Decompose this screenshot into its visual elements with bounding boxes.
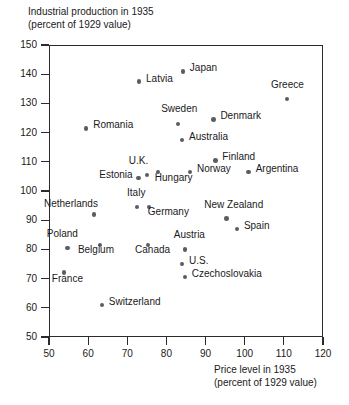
- data-point-marker: [84, 126, 89, 131]
- data-point-label: Estonia: [99, 169, 132, 180]
- data-point-label: Greece: [271, 79, 304, 90]
- y-axis-tick: [41, 220, 49, 221]
- data-point-label: France: [52, 273, 83, 284]
- x-axis-tick-label: 70: [112, 348, 142, 359]
- y-axis-tick: [41, 103, 49, 104]
- y-axis-tick: [41, 190, 49, 191]
- data-point-label: Finland: [222, 151, 255, 162]
- data-point-label: Argentina: [256, 163, 299, 174]
- y-axis-tick-label: 90: [9, 214, 37, 225]
- y-axis-tick: [41, 161, 49, 162]
- x-axis-title: Price level in 1935 (percent of 1929 val…: [214, 363, 317, 389]
- data-point-label: Spain: [244, 220, 270, 231]
- data-point-marker: [181, 69, 186, 74]
- y-axis-tick: [41, 74, 49, 75]
- y-axis-tick-label: 50: [9, 331, 37, 342]
- y-axis-tick-label: 110: [9, 156, 37, 167]
- data-point-label: Sweden: [161, 103, 197, 114]
- data-point-label: Australia: [189, 131, 228, 142]
- data-point-label: Belgium: [78, 244, 114, 255]
- data-point-marker: [183, 247, 188, 252]
- data-point-label: U.S.: [189, 255, 208, 266]
- data-point-marker: [211, 117, 216, 122]
- x-axis-tick-label: 100: [230, 348, 260, 359]
- scatter-chart-figure: Industrial production in 1935 (percent o…: [0, 0, 349, 405]
- x-axis-tick-label: 80: [151, 348, 181, 359]
- x-axis-tick: [205, 337, 206, 345]
- data-point-label: Austria: [174, 229, 205, 240]
- x-axis-tick: [48, 337, 49, 345]
- x-axis-tick-label: 120: [308, 348, 338, 359]
- data-point-label: Latvia: [146, 73, 173, 84]
- y-axis-title: Industrial production in 1935 (percent o…: [28, 5, 154, 31]
- data-point-label: Netherlands: [44, 198, 98, 209]
- y-axis-tick-label: 150: [9, 39, 37, 50]
- y-axis-tick-label: 70: [9, 273, 37, 284]
- x-axis-tick: [88, 337, 89, 345]
- y-axis-tick-label: 100: [9, 185, 37, 196]
- data-point-label: Norway: [197, 163, 231, 174]
- x-axis-tick: [322, 337, 323, 345]
- data-point-label: Denmark: [220, 110, 261, 121]
- x-axis-tick: [166, 337, 167, 345]
- data-point-label: Italy: [127, 187, 145, 198]
- data-point-label: Japan: [190, 62, 217, 73]
- data-point-label: Poland: [47, 228, 78, 239]
- x-axis-tick: [244, 337, 245, 345]
- y-axis-tick-label: 130: [9, 97, 37, 108]
- data-point-label: Romania: [93, 119, 133, 130]
- data-point-label: Czechoslovakia: [192, 268, 262, 279]
- x-axis-tick-label: 90: [191, 348, 221, 359]
- data-point-label: Canada: [135, 244, 170, 255]
- y-axis-tick-label: 120: [9, 127, 37, 138]
- x-axis-tick-label: 110: [269, 348, 299, 359]
- y-axis-tick: [41, 278, 49, 279]
- data-point-marker: [213, 158, 218, 163]
- y-axis-tick: [41, 132, 49, 133]
- y-axis-tick-label: 140: [9, 68, 37, 79]
- x-axis-tick-label: 50: [34, 348, 64, 359]
- y-axis-tick: [41, 307, 49, 308]
- data-point-marker: [137, 79, 142, 84]
- data-point-marker: [136, 176, 141, 181]
- data-point-label: Switzerland: [109, 296, 161, 307]
- x-axis-tick-label: 60: [73, 348, 103, 359]
- y-axis-tick: [41, 44, 49, 45]
- x-axis-tick: [283, 337, 284, 345]
- y-axis-tick: [41, 249, 49, 250]
- data-point-marker: [92, 212, 97, 217]
- data-point-label: U.K.: [129, 155, 148, 166]
- data-point-label: Germany: [148, 206, 189, 217]
- data-point-label: New Zealand: [204, 199, 263, 210]
- data-point-marker: [224, 216, 229, 221]
- y-axis-tick-label: 80: [9, 243, 37, 254]
- y-axis-tick-label: 60: [9, 302, 37, 313]
- data-point-label: Hungary: [155, 172, 193, 183]
- x-axis-tick: [127, 337, 128, 345]
